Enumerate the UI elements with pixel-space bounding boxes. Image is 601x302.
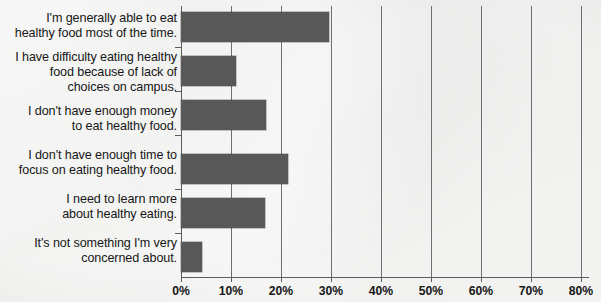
x-axis-tick-60 xyxy=(481,277,482,282)
bar-3 xyxy=(181,154,288,184)
x-axis-tick-20 xyxy=(281,277,282,282)
gridline-20 xyxy=(281,6,282,277)
gridline-30 xyxy=(331,6,332,277)
category-label-0-line-1: healthy food most of the time. xyxy=(3,26,177,41)
x-axis-tick-label-20: 20% xyxy=(258,284,304,298)
x-axis-tick-80 xyxy=(581,277,582,282)
gridline-60 xyxy=(481,6,482,277)
x-axis-tick-30 xyxy=(331,277,332,282)
x-axis-tick-label-30: 30% xyxy=(308,284,354,298)
category-label-3: I don't have enough time to focus on eat… xyxy=(3,148,181,178)
category-label-1-line-2: choices on campus. xyxy=(3,80,177,95)
gridline-50 xyxy=(431,6,432,277)
x-axis-tick-label-50: 50% xyxy=(408,284,454,298)
gridline-40 xyxy=(381,6,382,277)
category-label-2: I don't have enough money to eat healthy… xyxy=(3,104,181,134)
x-axis-tick-label-60: 60% xyxy=(458,284,504,298)
x-axis-tick-40 xyxy=(381,277,382,282)
category-label-1-line-1: food because of lack of xyxy=(3,65,177,80)
category-labels: I'm generally able to eat healthy food m… xyxy=(0,0,181,302)
gridline-80 xyxy=(581,6,582,277)
bar-5 xyxy=(181,242,202,272)
x-axis-tick-50 xyxy=(431,277,432,282)
x-axis-tick-label-70: 70% xyxy=(508,284,554,298)
x-axis-tick-label-0: 0% xyxy=(158,284,204,298)
plot-area xyxy=(181,6,588,277)
category-label-2-line-0: I don't have enough money xyxy=(3,104,177,119)
category-label-5-line-1: concerned about. xyxy=(3,251,177,266)
bar-4 xyxy=(181,198,265,228)
x-axis-tick-70 xyxy=(531,277,532,282)
category-label-0: I'm generally able to eat healthy food m… xyxy=(3,11,181,41)
category-label-4-line-1: about healthy eating. xyxy=(3,207,177,222)
category-label-5-line-0: It's not something I'm very xyxy=(3,236,177,251)
gridline-10 xyxy=(231,6,232,277)
category-label-0-line-0: I'm generally able to eat xyxy=(3,11,177,26)
category-label-1-line-0: I have difficulty eating healthy xyxy=(3,50,177,65)
x-axis-tick-0 xyxy=(181,277,182,282)
gridline-70 xyxy=(531,6,532,277)
category-label-3-line-1: focus on eating healthy food. xyxy=(3,163,177,178)
x-axis-tick-label-40: 40% xyxy=(358,284,404,298)
x-axis-tick-10 xyxy=(231,277,232,282)
x-axis-tick-label-10: 10% xyxy=(208,284,254,298)
category-label-4-line-0: I need to learn more xyxy=(3,192,177,207)
y-axis-line xyxy=(181,6,182,278)
bar-2 xyxy=(181,100,266,130)
category-label-3-line-0: I don't have enough time to xyxy=(3,148,177,163)
category-label-4: I need to learn more about healthy eatin… xyxy=(3,192,181,222)
x-axis-tick-label-80: 80% xyxy=(558,284,601,298)
category-label-2-line-1: to eat healthy food. xyxy=(3,119,177,134)
bar-1 xyxy=(181,56,236,86)
category-label-1: I have difficulty eating healthy food be… xyxy=(3,50,181,96)
x-axis-line xyxy=(181,277,589,278)
bar-0 xyxy=(181,12,329,42)
bar-chart: I'm generally able to eat healthy food m… xyxy=(0,0,601,302)
category-label-5: It's not something I'm very concerned ab… xyxy=(3,236,181,266)
